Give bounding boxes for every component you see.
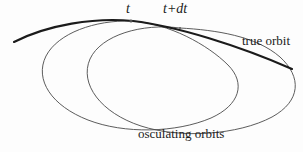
tangency-point-t-plus-dt-marker <box>179 27 181 29</box>
label-time-t-plus-dt: t+dt <box>163 2 187 16</box>
label-osculating-orbits: osculating orbits <box>138 127 224 140</box>
label-true-orbit: true orbit <box>242 34 290 47</box>
osculating-orbits-diagram: t t+dt true orbit osculating orbits <box>0 0 303 152</box>
label-time-t: t <box>126 2 130 16</box>
tangency-point-t-marker <box>129 19 132 22</box>
